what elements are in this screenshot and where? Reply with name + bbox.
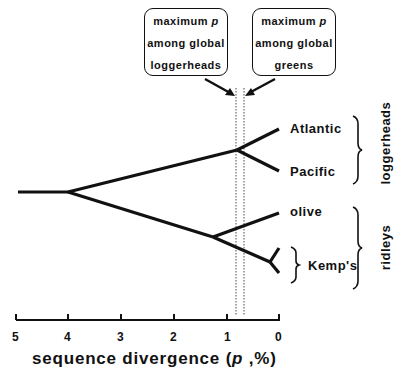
tick-label: 5 xyxy=(12,330,19,344)
tick-label: 2 xyxy=(170,330,177,344)
x-axis-label: sequence divergence (p ,%) xyxy=(32,349,277,369)
callout-text: maximum xyxy=(261,15,316,27)
callout-text: maximum xyxy=(153,15,208,27)
callout-text: among global xyxy=(145,32,227,54)
callout-greens: maximum p among global greens xyxy=(252,8,336,76)
callout-text: p xyxy=(320,15,327,27)
tick-label: 4 xyxy=(64,330,71,344)
x-axis-label-italic: p xyxy=(232,349,243,368)
callout-loggerheads: maximum p among global loggerheads xyxy=(144,8,228,76)
tick-label: 0 xyxy=(275,330,282,344)
taxon-kemps: Kemp's xyxy=(308,258,357,273)
group-ridleys: ridleys xyxy=(378,208,393,288)
taxon-olive: olive xyxy=(290,204,322,219)
callout-text: p xyxy=(212,15,219,27)
callout-text: among global xyxy=(253,32,335,54)
group-loggerheads: loggerheads xyxy=(378,105,393,185)
tick-label: 3 xyxy=(117,330,124,344)
callout-text: greens xyxy=(253,54,335,76)
taxon-pacific: Pacific xyxy=(290,164,335,179)
kemps-brace xyxy=(291,247,299,283)
taxon-atlantic: Atlantic xyxy=(290,121,342,136)
x-axis-label-text: ,%) xyxy=(243,349,276,368)
ridleys-brace xyxy=(353,207,362,289)
callout-text: loggerheads xyxy=(145,54,227,76)
tick-label: 1 xyxy=(224,330,231,344)
x-axis-label-text: sequence divergence ( xyxy=(32,349,232,368)
loggerheads-brace xyxy=(353,116,362,184)
